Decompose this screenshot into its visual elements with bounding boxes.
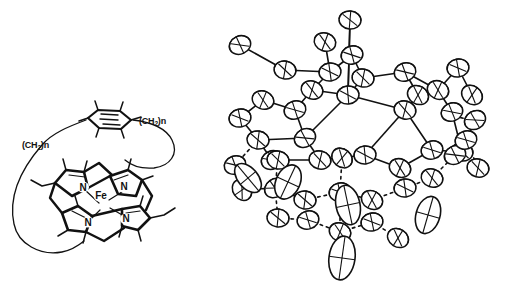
thermal-ellipsoid [338, 10, 361, 30]
schematic-svg: Fe N N N N (CH2)n (CH2)n [0, 0, 215, 285]
thermal-ellipsoid [419, 138, 445, 161]
thermal-ellipsoid [312, 30, 339, 54]
thermal-ellipsoid [350, 67, 375, 89]
ortep-thermal-ellipsoid-panel [200, 0, 515, 285]
ortep-atoms [222, 10, 491, 282]
nitrogen-atom-label-1: N [79, 182, 86, 193]
strap-label-left: (CH2)n [22, 140, 49, 151]
nitrogen-atom-label-3: N [84, 217, 91, 228]
thermal-ellipsoid [249, 88, 276, 113]
thermal-ellipsoid [273, 59, 298, 81]
strap-label-right: (CH2)n [139, 116, 166, 127]
thermal-ellipsoid [386, 155, 413, 180]
thermal-ellipsoid [419, 166, 445, 190]
chemical-structure-schematic-panel: Fe N N N N (CH2)n (CH2)n [0, 0, 215, 285]
thermal-ellipsoid [446, 57, 471, 79]
thermal-ellipsoid [339, 43, 365, 66]
thermal-ellipsoid [328, 144, 356, 172]
benzene-cap-inner-bonds [100, 114, 120, 125]
thermal-ellipsoid [438, 100, 465, 125]
thermal-ellipsoid [226, 32, 254, 58]
thermal-ellipsoid [246, 130, 270, 151]
elongated-thermal-ellipsoids [229, 159, 444, 282]
thermal-ellipsoid [392, 60, 419, 84]
nitrogen-atom-label-2: N [120, 181, 127, 192]
strap-right [125, 120, 174, 168]
metal-atom-label: Fe [95, 190, 107, 201]
ortep-svg [200, 0, 515, 285]
thermal-ellipsoid [358, 187, 386, 213]
thermal-ellipsoid [359, 211, 384, 233]
thermal-ellipsoid [293, 190, 317, 211]
thermal-ellipsoid [458, 81, 486, 108]
thermal-ellipsoid [336, 85, 359, 105]
thermal-ellipsoid [353, 145, 377, 165]
figure-root: Fe N N N N (CH2)n (CH2)n [0, 0, 515, 285]
thermal-ellipsoid [282, 98, 308, 122]
thermal-ellipsoid [384, 225, 412, 252]
thermal-ellipsoid [393, 178, 417, 199]
thermal-ellipsoid [266, 208, 290, 228]
thermal-ellipsoid [295, 208, 321, 231]
thermal-ellipsoid [461, 107, 489, 134]
nitrogen-atom-label-4: N [122, 213, 129, 224]
thermal-ellipsoid [307, 149, 333, 172]
